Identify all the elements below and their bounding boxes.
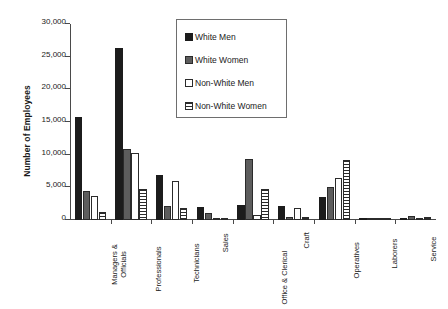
x-axis-label-line: Office & Clerical bbox=[280, 251, 289, 305]
bar bbox=[91, 196, 98, 220]
bar bbox=[213, 218, 220, 220]
y-tick: 0 bbox=[70, 219, 71, 220]
bar bbox=[164, 206, 171, 220]
x-axis-label: Sales bbox=[222, 233, 231, 252]
x-axis-label: Craft bbox=[302, 232, 311, 248]
legend-swatch-icon bbox=[185, 102, 193, 110]
x-axis-label-line: Craft bbox=[302, 232, 311, 248]
legend-item: Non-White Women bbox=[185, 100, 267, 112]
bar bbox=[424, 217, 431, 220]
bar bbox=[131, 153, 138, 220]
x-axis-label: Laborers bbox=[390, 239, 399, 269]
legend-item: White Men bbox=[185, 31, 236, 43]
y-tick: 15,000 bbox=[70, 121, 71, 122]
x-separator-tick bbox=[111, 220, 112, 224]
bar bbox=[400, 218, 407, 220]
y-tick-label: 15,000 bbox=[42, 115, 66, 124]
x-axis-label: Managers &Officials bbox=[111, 244, 129, 284]
x-separator-tick bbox=[314, 220, 315, 224]
bar bbox=[180, 208, 187, 220]
y-tick-label: 5,000 bbox=[46, 180, 66, 189]
bar bbox=[327, 187, 334, 220]
x-separator-tick bbox=[151, 220, 152, 224]
bar bbox=[221, 218, 228, 220]
x-separator-tick bbox=[273, 220, 274, 224]
bar-group bbox=[400, 24, 431, 220]
x-axis-label: Service bbox=[428, 237, 437, 262]
x-separator-tick bbox=[355, 220, 356, 224]
x-axis-label: Technicians bbox=[191, 244, 200, 283]
bar bbox=[139, 189, 146, 220]
y-tick: 10,000 bbox=[70, 154, 71, 155]
bar-group bbox=[75, 24, 106, 220]
bar bbox=[343, 160, 350, 220]
bar bbox=[367, 218, 374, 220]
x-axis-label-line: Sales bbox=[222, 233, 231, 252]
x-axis-label-line: Operatives bbox=[352, 242, 361, 278]
bar bbox=[156, 175, 163, 220]
x-axis-label: Professionals bbox=[154, 247, 163, 292]
x-separator-tick bbox=[233, 220, 234, 224]
bar bbox=[416, 218, 423, 220]
y-tick: 5,000 bbox=[70, 186, 71, 187]
bar bbox=[278, 206, 285, 220]
bar-group bbox=[115, 24, 146, 220]
legend-item: White Women bbox=[185, 54, 248, 66]
bar bbox=[383, 218, 390, 220]
bar bbox=[197, 207, 204, 220]
bar bbox=[83, 191, 90, 220]
bar bbox=[99, 212, 106, 220]
x-axis-label-line: Technicians bbox=[191, 244, 200, 283]
legend-label: Non-White Women bbox=[195, 101, 267, 111]
legend-label: Non-White Men bbox=[195, 78, 254, 88]
bar bbox=[115, 48, 122, 220]
y-axis-title: Number of Employees bbox=[22, 66, 36, 196]
legend-item: Non-White Men bbox=[185, 77, 254, 89]
x-axis-label: Office & Clerical bbox=[280, 251, 289, 305]
bar bbox=[261, 189, 268, 220]
bar bbox=[237, 205, 244, 220]
bar bbox=[335, 178, 342, 220]
legend-swatch-icon bbox=[185, 33, 193, 41]
bar bbox=[75, 117, 82, 220]
chart-legend: White MenWhite WomenNon-White MenNon-Whi… bbox=[176, 19, 287, 118]
bar-group bbox=[359, 24, 390, 220]
legend-swatch-icon bbox=[185, 79, 193, 87]
x-axis-label-line: Officials bbox=[120, 244, 129, 284]
y-axis-line bbox=[70, 24, 71, 220]
x-separator-tick bbox=[192, 220, 193, 224]
y-tick-label: 10,000 bbox=[42, 148, 66, 157]
y-tick-label: 30,000 bbox=[42, 17, 66, 26]
bar bbox=[123, 149, 130, 220]
bar-chart: Number of Employees 05,00010,00015,00020… bbox=[0, 0, 448, 309]
y-tick: 30,000 bbox=[70, 23, 71, 24]
bar bbox=[359, 218, 366, 220]
bar bbox=[205, 213, 212, 220]
y-tick-label: 20,000 bbox=[42, 82, 66, 91]
y-tick: 20,000 bbox=[70, 88, 71, 89]
bar bbox=[408, 216, 415, 220]
x-axis-label-line: Service bbox=[428, 237, 437, 262]
bar-group bbox=[319, 24, 350, 220]
y-tick-label: 0 bbox=[62, 213, 66, 222]
bar bbox=[172, 181, 179, 220]
y-tick-label: 25,000 bbox=[42, 50, 66, 59]
bar bbox=[302, 217, 309, 220]
legend-swatch-icon bbox=[185, 56, 193, 64]
x-axis-label: Operatives bbox=[352, 242, 361, 278]
bar bbox=[294, 208, 301, 220]
bar bbox=[245, 159, 252, 220]
legend-label: White Men bbox=[195, 32, 236, 42]
x-axis-label-line: Professionals bbox=[154, 247, 163, 292]
x-axis-label-line: Laborers bbox=[390, 239, 399, 269]
y-tick: 25,000 bbox=[70, 56, 71, 57]
bar bbox=[319, 197, 326, 220]
bar bbox=[253, 215, 260, 220]
x-axis-label-line: Managers & bbox=[111, 244, 120, 284]
bar bbox=[375, 218, 382, 220]
bar bbox=[286, 217, 293, 220]
legend-label: White Women bbox=[195, 55, 248, 65]
x-separator-tick bbox=[395, 220, 396, 224]
